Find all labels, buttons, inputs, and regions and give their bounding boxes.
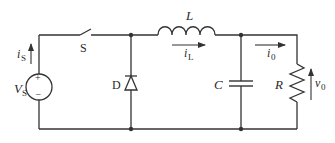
diode-label: D (112, 78, 121, 92)
svg-text:i: i (184, 46, 187, 60)
switch-icon (80, 29, 91, 35)
inductor-label: L (185, 8, 193, 23)
svg-text:0: 0 (321, 82, 326, 92)
svg-text:0: 0 (271, 52, 276, 62)
resistor-label: R (274, 77, 283, 92)
switch-label: S (80, 41, 87, 55)
svg-text:i: i (267, 46, 270, 60)
resistor-icon (290, 64, 304, 102)
inductor-icon (158, 27, 215, 35)
svg-text:L: L (188, 52, 194, 62)
capacitor-icon (229, 81, 253, 86)
output-current-label: i 0 (267, 46, 276, 62)
svg-text:S: S (22, 88, 27, 98)
buck-converter-diagram: + − V S i S S D L i L C (0, 0, 335, 143)
diode-icon (125, 76, 137, 90)
output-voltage-label: v 0 (315, 76, 326, 92)
plus-sign: + (35, 72, 41, 83)
voltage-source-icon: + − (26, 72, 52, 100)
wires (39, 35, 297, 129)
inductor-current-label: i L (184, 46, 194, 62)
source-current-label: i S (17, 47, 26, 63)
svg-text:S: S (21, 53, 26, 63)
minus-sign: − (36, 89, 42, 100)
capacitor-label: C (214, 77, 223, 92)
source-voltage-label: V S (14, 81, 27, 98)
svg-text:i: i (17, 47, 20, 61)
